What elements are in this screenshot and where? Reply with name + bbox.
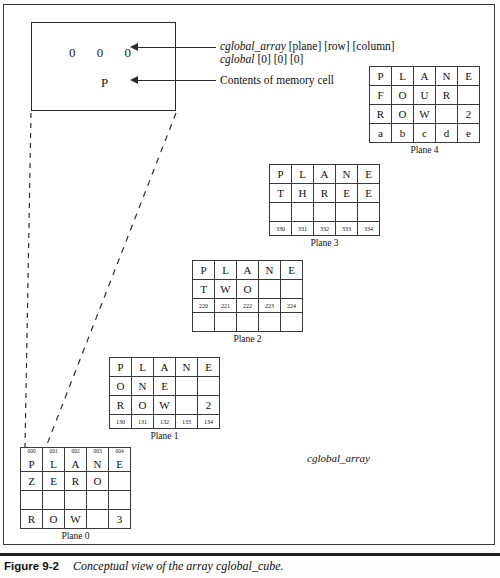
table-row: 220221222223224 [193, 299, 303, 313]
grid-cell: H [292, 184, 314, 203]
grid-cell: O [392, 105, 414, 124]
plane-4-table: PLANEFOURROW2abcde [369, 66, 480, 143]
grid-cell [176, 396, 198, 415]
plane-0-label: Plane 0 [20, 531, 131, 541]
arrow-head-subscript-icon [130, 43, 138, 51]
grid-cell: 130 [110, 415, 132, 429]
grid-cell: R [314, 184, 336, 203]
table-row [193, 313, 303, 332]
grid-cell [176, 377, 198, 396]
grid-cell [87, 491, 109, 510]
grid-cell: 332 [314, 222, 336, 236]
grid-cell: R [370, 105, 392, 124]
table-row: THREE [270, 184, 380, 203]
plane-3-table: PLANETHREE330331332333334 [269, 164, 380, 236]
table-row: ROW2 [110, 396, 220, 415]
grid-cell [281, 280, 303, 299]
figure-caption: Figure 9-2Conceptual view of the array c… [4, 559, 496, 574]
grid-cell [87, 510, 109, 529]
table-row: PLANE [270, 165, 380, 184]
grid-cell: N [176, 358, 198, 377]
table-row: abcde [370, 124, 480, 143]
grid-cell: c [414, 124, 436, 143]
grid-cell [259, 280, 281, 299]
grid-cell: U [414, 86, 436, 105]
cell-index-label: 004 [109, 448, 130, 455]
subscript-annotation-array-name: cglobal_array [220, 40, 286, 52]
table-row: 130131132133134 [110, 415, 220, 429]
grid-cell: R [21, 510, 43, 529]
grid-cell: a [370, 124, 392, 143]
grid-cell [436, 105, 458, 124]
plane-2-table: PLANETWO220221222223224 [192, 260, 303, 332]
table-row: PLANE [193, 261, 303, 280]
grid-cell: T [193, 280, 215, 299]
grid-cell: A [414, 67, 436, 86]
grid-cell: O [110, 377, 132, 396]
grid-cell: Z [21, 472, 43, 491]
grid-cell: N [436, 67, 458, 86]
arrow-head-contents-icon [130, 76, 138, 84]
grid-cell: P [270, 165, 292, 184]
grid-cell: P [370, 67, 392, 86]
grid-cell: d [436, 124, 458, 143]
grid-cell [259, 313, 281, 332]
callout-cell-value: P [32, 75, 177, 91]
grid-cell: 331 [292, 222, 314, 236]
table-row: ROW2 [370, 105, 480, 124]
grid-cell: P [193, 261, 215, 280]
cell-value: P [28, 458, 34, 470]
grid-cell: 222 [237, 299, 259, 313]
grid-cell: W [215, 280, 237, 299]
grid-cell: A [237, 261, 259, 280]
grid-cell [458, 86, 480, 105]
cell-index-label: 002 [65, 448, 86, 455]
contents-annotation: Contents of memory cell [220, 74, 334, 87]
grid-cell: L [132, 358, 154, 377]
table-row: FOUR [370, 86, 480, 105]
grid-cell: e [458, 124, 480, 143]
subscript-annotation-var-indices: [0] [0] [0] [255, 53, 304, 65]
grid-cell [21, 491, 43, 510]
grid-cell: W [154, 396, 176, 415]
table-row [21, 491, 131, 510]
table-row: TWO [193, 280, 303, 299]
grid-cell: O [43, 510, 65, 529]
plane-3-label: Plane 3 [269, 238, 380, 248]
grid-cell [198, 377, 220, 396]
cell-value: A [72, 458, 80, 470]
grid-cell [215, 313, 237, 332]
grid-cell [281, 313, 303, 332]
memory-cell-callout-box: 0 0 0 P [31, 22, 176, 111]
cell-index-label: 000 [21, 448, 42, 455]
plane-0-table: 000P001L002A003N004EZEROROW3 [20, 447, 131, 529]
grid-cell: 131 [132, 415, 154, 429]
table-row: 330331332333334 [270, 222, 380, 236]
grid-cell [292, 203, 314, 222]
grid-cell: O [392, 86, 414, 105]
grid-cell [237, 313, 259, 332]
grid-cell: P [110, 358, 132, 377]
caption-divider [0, 553, 500, 556]
grid-cell [109, 491, 131, 510]
subscript-annotation-var-name: cglobal [220, 53, 255, 65]
grid-cell: N [336, 165, 358, 184]
grid-cell: 003N [87, 448, 109, 472]
leader-line-subscript [138, 47, 216, 48]
grid-cell: 334 [358, 222, 380, 236]
grid-cell: b [392, 124, 414, 143]
grid-cell [109, 472, 131, 491]
grid-cell: F [370, 86, 392, 105]
grid-cell: A [154, 358, 176, 377]
grid-cell: E [358, 184, 380, 203]
plane-4-grid: PLANEFOURROW2abcde Plane 4 [369, 66, 480, 143]
plane-1-label: Plane 1 [109, 431, 220, 441]
grid-cell: E [358, 165, 380, 184]
grid-cell: E [154, 377, 176, 396]
grid-cell: 002A [65, 448, 87, 472]
grid-cell: 132 [154, 415, 176, 429]
grid-cell: L [392, 67, 414, 86]
grid-cell: O [132, 396, 154, 415]
grid-cell: T [270, 184, 292, 203]
figure-caption-text: Conceptual view of the array cglobal_cub… [73, 559, 284, 573]
